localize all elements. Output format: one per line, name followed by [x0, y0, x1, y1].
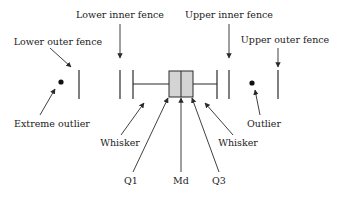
label-lower-outer-fence: Lower outer fence [14, 36, 103, 47]
arrow-extreme-outlier [40, 89, 55, 115]
arrow-outlier [255, 90, 260, 115]
arrow-whisker-right [205, 103, 233, 135]
label-median: Md [173, 175, 189, 186]
arrow-q1 [133, 98, 168, 172]
label-whisker-right: Whisker [218, 137, 258, 148]
label-upper-outer-fence: Upper outer fence [241, 34, 330, 45]
label-whisker-left: Whisker [100, 137, 140, 148]
extreme-outlier-point [58, 79, 63, 84]
label-q1: Q1 [124, 175, 138, 186]
arrow-lower-outer-fence [50, 48, 71, 67]
label-lower-inner-fence: Lower inner fence [76, 9, 164, 20]
label-outlier: Outlier [247, 118, 281, 129]
boxplot-diagram: Lower inner fence Lower outer fence Uppe… [0, 0, 339, 198]
arrow-whisker-left [121, 103, 144, 135]
outlier-point [249, 80, 254, 85]
label-q3: Q3 [212, 175, 226, 186]
label-upper-inner-fence: Upper inner fence [185, 9, 273, 20]
arrow-q3 [192, 98, 219, 172]
label-extreme-outlier: Extreme outlier [14, 118, 90, 129]
